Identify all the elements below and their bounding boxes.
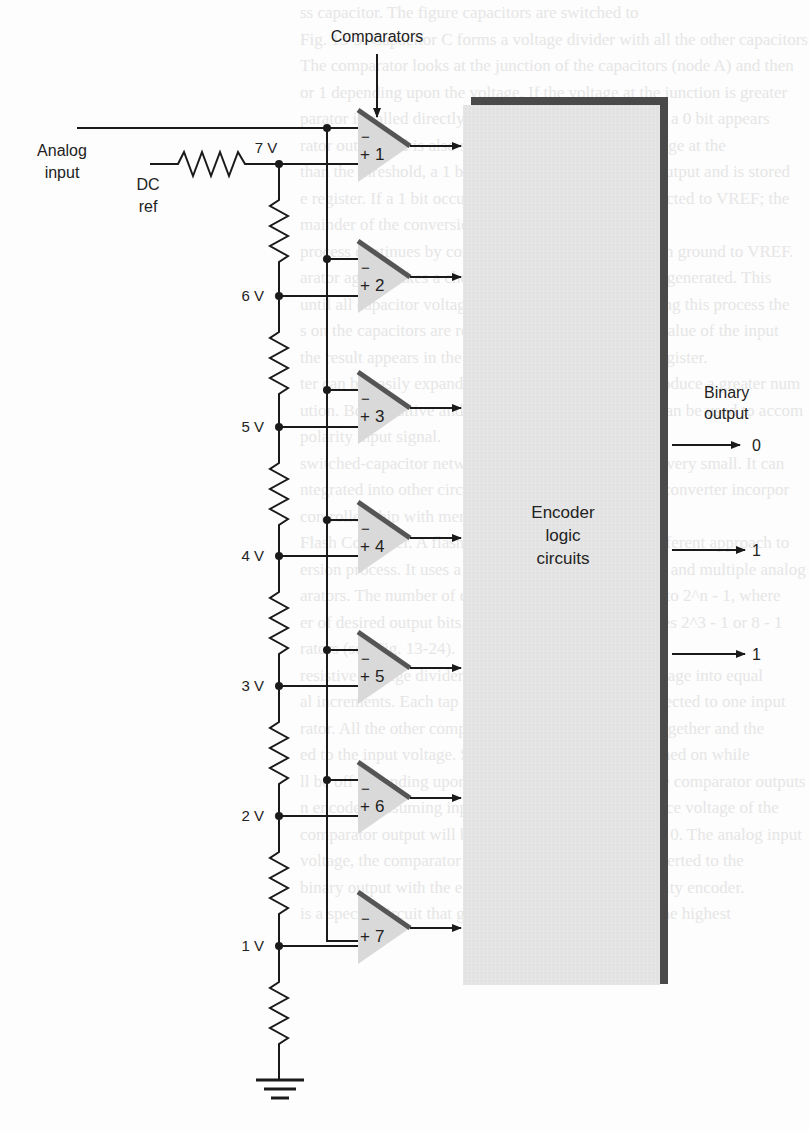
comparator-number: 6 xyxy=(375,797,384,816)
binary-output-bit-0: 0 xyxy=(752,437,761,454)
node-voltage-7v: 7 V xyxy=(255,139,278,156)
comparator-plus-sign: + xyxy=(360,667,370,686)
node-voltage-3v: 3 V xyxy=(241,677,264,694)
analog-input-bus xyxy=(327,128,358,941)
comparator-5: −+5 xyxy=(358,632,461,704)
comparator-1: −+1 xyxy=(358,110,461,182)
node-voltage-5v: 5 V xyxy=(241,418,264,435)
encoder-label-line-2: logic xyxy=(546,526,581,545)
node-voltage-4v: 4 V xyxy=(241,547,264,564)
comparator-minus-sign: − xyxy=(361,259,370,276)
voltage-taps: 7 V 6 V 5 V 4 V 3 V 2 V 1 V xyxy=(241,139,358,954)
dc-ref-label-line-2: ref xyxy=(139,198,158,215)
analog-input-label-line-1: Analog xyxy=(37,142,87,159)
comparator-2: −+2 xyxy=(358,241,461,313)
comparator-minus-sign: − xyxy=(361,390,370,407)
node-voltage-1v: 1 V xyxy=(241,937,264,954)
binary-output-label-line-2: output xyxy=(704,405,749,422)
node-voltage-6v: 6 V xyxy=(241,287,264,304)
comparator-plus-sign: + xyxy=(360,797,370,816)
analog-input-label-line-2: input xyxy=(45,164,80,181)
binary-output-bit-1: 1 xyxy=(752,542,761,559)
comparator-minus-sign: − xyxy=(361,910,370,927)
comparator-minus-sign: − xyxy=(361,128,370,145)
comparator-number: 1 xyxy=(375,145,384,164)
comparator-number: 2 xyxy=(375,276,384,295)
comparator-stack: −+1−+2−+3−+4−+5−+6−+7 xyxy=(358,110,461,964)
comparator-minus-sign: − xyxy=(361,650,370,667)
binary-output-bit-2: 1 xyxy=(752,646,761,663)
flash-converter-schematic: Encoder logic circuits Comparators Analo… xyxy=(0,0,809,1132)
encoder-label-line-1: Encoder xyxy=(531,503,595,522)
comparator-3: −+3 xyxy=(358,372,461,444)
comparator-6: −+6 xyxy=(358,762,461,834)
comparator-plus-sign: + xyxy=(360,276,370,295)
dc-ref-label-line-1: DC xyxy=(136,176,159,193)
comparator-4: −+4 xyxy=(358,502,461,574)
comparator-plus-sign: + xyxy=(360,407,370,426)
comparators-title: Comparators xyxy=(331,28,423,45)
comparator-minus-sign: − xyxy=(361,780,370,797)
comparator-minus-sign: − xyxy=(361,520,370,537)
comparator-number: 5 xyxy=(375,667,384,686)
bus-taps xyxy=(323,255,358,784)
node-voltage-2v: 2 V xyxy=(241,807,264,824)
comparator-plus-sign: + xyxy=(360,537,370,556)
comparator-number: 4 xyxy=(375,537,384,556)
comparator-7: −+7 xyxy=(358,892,461,964)
comparator-number: 7 xyxy=(375,927,384,946)
encoder-label-line-3: circuits xyxy=(537,549,590,568)
binary-output-label-line-1: Binary xyxy=(704,384,749,401)
ground-icon xyxy=(256,1080,304,1098)
encoder-logic-block: Encoder logic circuits xyxy=(463,97,668,985)
comparator-number: 3 xyxy=(375,407,384,426)
flash-adc-figure: ss capacitor. The figure capacitors are … xyxy=(0,0,809,1132)
comparator-plus-sign: + xyxy=(360,145,370,164)
comparator-plus-sign: + xyxy=(360,927,370,946)
